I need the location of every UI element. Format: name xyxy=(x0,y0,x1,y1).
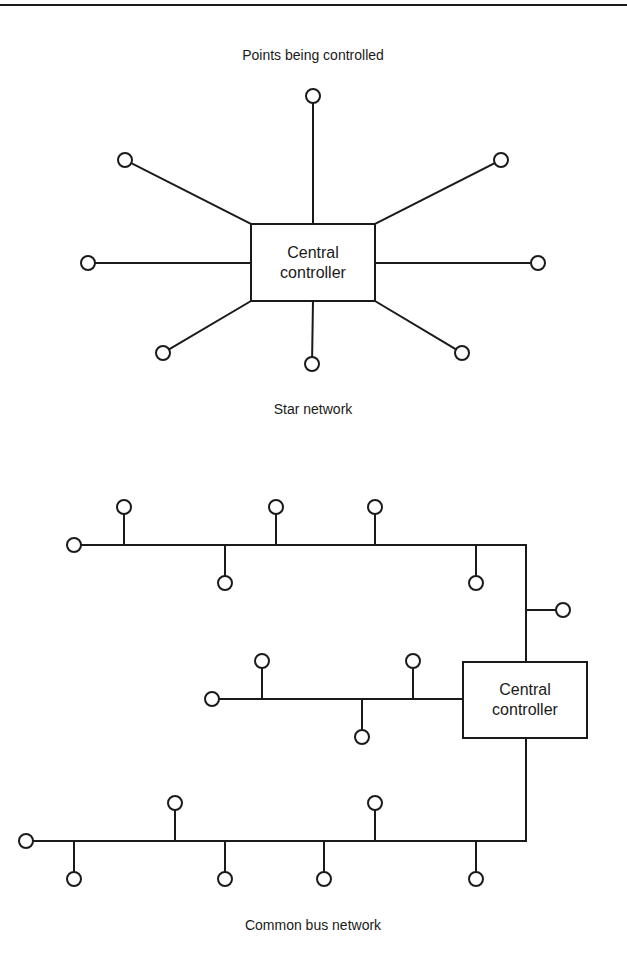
node-point-icon xyxy=(218,872,232,886)
bus-caption: Common bus network xyxy=(245,917,381,933)
node-point-icon xyxy=(469,576,483,590)
node-point-icon xyxy=(218,576,232,590)
node-point-icon xyxy=(81,256,95,270)
node-point-icon xyxy=(355,730,369,744)
star-link xyxy=(375,163,495,224)
star-heading: Points being controlled xyxy=(242,47,384,63)
node-point-icon xyxy=(67,872,81,886)
star-controller-label: Central controller xyxy=(280,243,346,283)
node-point-icon xyxy=(156,346,170,360)
star-link xyxy=(375,301,456,349)
node-point-icon xyxy=(306,89,320,103)
star-caption: Star network xyxy=(274,401,353,417)
node-point-icon xyxy=(305,357,319,371)
bus-controller-line1: Central xyxy=(492,680,558,700)
node-point-icon xyxy=(317,872,331,886)
node-point-icon xyxy=(368,500,382,514)
node-point-icon xyxy=(455,346,469,360)
node-point-icon xyxy=(406,654,420,668)
bus-controller-line2: controller xyxy=(492,700,558,720)
star-link xyxy=(169,301,251,349)
node-point-icon xyxy=(368,796,382,810)
star-controller-line1: Central xyxy=(280,243,346,263)
network-topology-figure: Points being controlled Central controll… xyxy=(0,0,627,958)
node-point-icon xyxy=(205,692,219,706)
star-controller-line2: controller xyxy=(280,263,346,283)
node-point-icon xyxy=(531,256,545,270)
node-point-icon xyxy=(556,603,570,617)
node-point-icon xyxy=(19,834,33,848)
node-point-icon xyxy=(117,500,131,514)
diagram-canvas xyxy=(0,0,627,958)
bus-controller-label: Central controller xyxy=(492,680,558,720)
node-point-icon xyxy=(269,500,283,514)
star-link xyxy=(131,163,251,224)
node-point-icon xyxy=(168,796,182,810)
node-point-icon xyxy=(469,872,483,886)
node-point-icon xyxy=(67,538,81,552)
node-point-icon xyxy=(255,654,269,668)
star-link xyxy=(312,301,313,357)
node-point-icon xyxy=(118,153,132,167)
node-point-icon xyxy=(494,153,508,167)
